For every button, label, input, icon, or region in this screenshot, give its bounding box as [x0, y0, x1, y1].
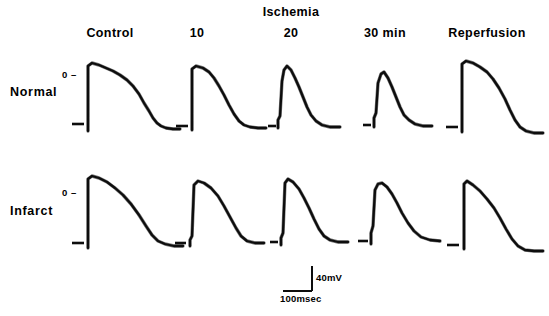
trace-ink-spread [462, 61, 543, 133]
action-potential-trace [281, 179, 348, 245]
trace-ink-spread [464, 181, 543, 251]
trace-ink-spread [281, 179, 348, 245]
scale-label-voltage: 40mV [316, 272, 342, 283]
trace-ink-spread [278, 66, 340, 128]
action-potential-trace [88, 176, 183, 248]
action-potential-trace [88, 63, 180, 131]
trace-ink-spread [371, 183, 440, 244]
action-potential-trace [371, 183, 440, 244]
action-potential-traces [0, 0, 549, 316]
action-potential-trace [278, 66, 340, 128]
scale-label-time: 100msec [280, 293, 322, 304]
action-potential-trace [374, 72, 432, 127]
scale-bar: 40mV 100msec [278, 260, 368, 306]
trace-ink-spread [88, 63, 180, 131]
action-potential-trace [190, 181, 264, 246]
action-potential-trace [464, 181, 543, 251]
action-potential-figure: Ischemia Control 10 20 30 min Reperfusio… [0, 0, 549, 316]
trace-ink-spread [192, 66, 266, 130]
trace-ink-spread [374, 72, 432, 127]
action-potential-trace [192, 66, 266, 130]
